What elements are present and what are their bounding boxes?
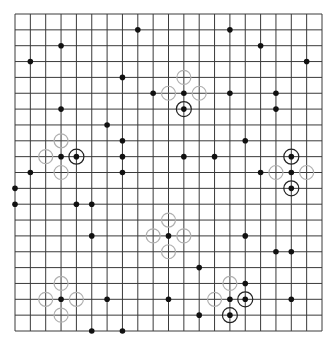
stone[interactable] [28,59,34,65]
highlighted-stone[interactable] [74,154,80,160]
stone[interactable] [58,154,64,160]
stone[interactable] [273,249,279,255]
stone[interactable] [212,154,218,160]
stone[interactable] [166,233,172,239]
stone[interactable] [289,170,295,176]
stone[interactable] [12,186,18,192]
stone[interactable] [196,312,202,318]
highlighted-stone[interactable] [242,297,248,303]
stone[interactable] [196,265,202,271]
stone[interactable] [58,43,64,49]
stone[interactable] [227,90,233,96]
stone[interactable] [181,154,187,160]
stone[interactable] [89,328,95,334]
stone[interactable] [120,154,126,160]
stone[interactable] [273,106,279,112]
stone[interactable] [104,122,110,128]
stone[interactable] [304,59,310,65]
stone[interactable] [58,297,64,303]
stone[interactable] [28,170,34,176]
stone[interactable] [242,138,248,144]
stone[interactable] [58,106,64,112]
stone[interactable] [273,90,279,96]
stone[interactable] [12,201,18,207]
stone[interactable] [227,27,233,33]
stones [12,27,309,334]
stone[interactable] [242,281,248,287]
stone[interactable] [166,297,172,303]
stone[interactable] [74,201,80,207]
board-grid [15,14,322,331]
stone[interactable] [258,43,264,49]
stone[interactable] [120,328,126,334]
stone[interactable] [227,297,233,303]
stone[interactable] [104,297,110,303]
game-board[interactable] [0,0,336,346]
stone[interactable] [289,249,295,255]
stone[interactable] [89,233,95,239]
highlighted-stone[interactable] [181,106,187,112]
stone[interactable] [181,90,187,96]
stone[interactable] [89,201,95,207]
stone[interactable] [150,90,156,96]
stone[interactable] [135,27,141,33]
highlighted-stone[interactable] [289,154,295,160]
stone[interactable] [120,138,126,144]
stone[interactable] [120,75,126,81]
highlighted-stone[interactable] [227,312,233,318]
stone[interactable] [242,233,248,239]
stone[interactable] [258,170,264,176]
highlighted-stone[interactable] [289,186,295,192]
stone[interactable] [120,170,126,176]
stone[interactable] [289,297,295,303]
